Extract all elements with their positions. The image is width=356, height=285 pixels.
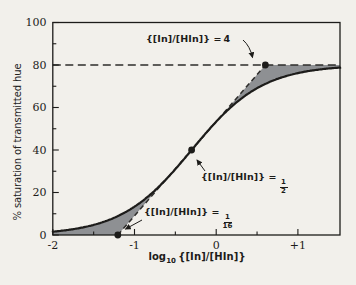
annotation-ratio-sixteenth: {[In]/[HIn]} =116 (144, 206, 233, 230)
x-axis-label: log10 {[In]/[HIn]} (148, 251, 245, 265)
shaded-region-right (192, 65, 341, 150)
x-axis-label-subscript: 10 (166, 257, 176, 265)
annotation-ratio-half-label: {[In]/[HIn]} = (201, 171, 277, 182)
y-tick-label: 0 (40, 229, 47, 242)
y-tick-label: 40 (33, 144, 47, 157)
data-point-dot (188, 147, 195, 154)
x-axis-label-log: log (148, 251, 166, 262)
y-axis-label: % saturation of transmitted hue (12, 63, 23, 220)
arrow-ratio-4 (243, 40, 253, 58)
annotation-ratio-4: {[In]/[HIn]} =4 (146, 33, 230, 44)
y-tick-label: 100 (26, 16, 47, 29)
data-point-dot (262, 62, 269, 69)
x-tick-label: -2 (47, 239, 58, 252)
x-tick-label: +1 (290, 239, 306, 252)
x-tick-label: 0 (213, 239, 220, 252)
y-tick-label: 20 (33, 186, 47, 199)
annotation-ratio-half-fraction: 12 (280, 179, 288, 195)
annotation-ratio-4-label: {[In]/[HIn]} = (146, 33, 222, 44)
plot-border (53, 23, 340, 236)
y-tick-label: 60 (33, 101, 47, 114)
annotation-ratio-sixteenth-fraction: 116 (223, 214, 233, 230)
annotation-ratio-half: {[In]/[HIn]} =12 (201, 171, 288, 195)
y-tick-label: 80 (33, 59, 47, 72)
annotation-ratio-sixteenth-label: {[In]/[HIn]} = (144, 206, 220, 217)
data-point-dot (114, 232, 121, 239)
x-tick-label: -1 (129, 239, 140, 252)
indicator-hue-saturation-figure: 020406080100-2-10+1 % saturation of tran… (0, 0, 356, 285)
x-axis-label-ratio: {[In]/[HIn]} (178, 251, 245, 262)
annotation-ratio-4-value: 4 (224, 33, 231, 44)
arrow-ratio-half (197, 160, 205, 171)
